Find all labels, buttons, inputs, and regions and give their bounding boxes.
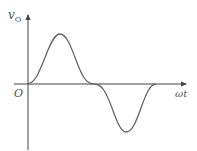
origin-label: O xyxy=(14,87,23,100)
output-voltage-curve xyxy=(28,34,156,132)
x-axis-label: ωt xyxy=(175,88,188,99)
y-axis-label: vO xyxy=(8,8,22,24)
waveform-diagram: vO O ωt xyxy=(0,0,197,151)
